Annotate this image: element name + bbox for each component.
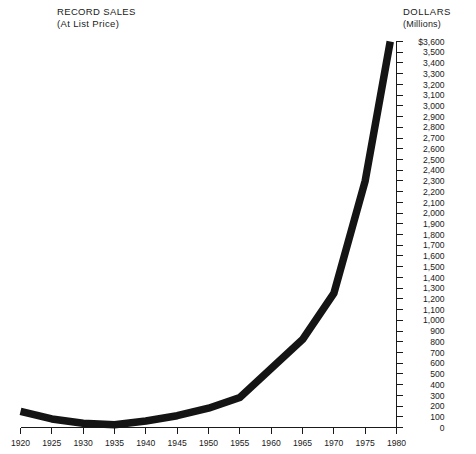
- y-tick-label: 2,600: [423, 144, 445, 154]
- y-tick-label: 200: [430, 401, 445, 411]
- y-tick-label: 3,200: [423, 80, 445, 90]
- y-tick-label: 0: [440, 423, 445, 433]
- x-tick-label: 1940: [136, 438, 155, 448]
- x-tick-label: 1975: [356, 438, 375, 448]
- x-tick-label: 1965: [293, 438, 312, 448]
- chart-container: RECORD SALES (At List Price) DOLLARS (Mi…: [0, 0, 476, 454]
- y-tick-label: 1,500: [423, 262, 445, 272]
- x-tick-label: 1920: [11, 438, 30, 448]
- y-tick-label: 2,800: [423, 122, 445, 132]
- y-tick-label: 2,700: [423, 133, 445, 143]
- y-tick-label: 700: [430, 348, 445, 358]
- x-tick-label: 1925: [42, 438, 61, 448]
- y-tick-label: 3,400: [423, 58, 445, 68]
- x-tick-label: 1950: [199, 438, 218, 448]
- y-tick-label: 500: [430, 369, 445, 379]
- plot-area: $3,6003,5003,4003,3003,2003,1003,0002,90…: [0, 0, 476, 454]
- y-tick-label: 1,800: [423, 230, 445, 240]
- y-tick-label: 3,100: [423, 90, 445, 100]
- y-tick-label: 400: [430, 380, 445, 390]
- y-tick-label: 1,000: [423, 315, 445, 325]
- y-tick-label: $3,600: [418, 37, 445, 47]
- y-tick-label: 1,100: [423, 305, 445, 315]
- x-axis-ticks: [21, 428, 397, 434]
- y-tick-label: 2,300: [423, 176, 445, 186]
- x-tick-label: 1945: [168, 438, 187, 448]
- y-tick-label: 2,100: [423, 198, 445, 208]
- x-axis-tick-labels: 1920192519301935194019451950195519601965…: [11, 438, 406, 448]
- y-tick-label: 1,300: [423, 283, 445, 293]
- y-tick-label: 2,900: [423, 112, 445, 122]
- y-tick-label: 1,600: [423, 251, 445, 261]
- x-tick-label: 1970: [324, 438, 343, 448]
- y-axis-ticks: [397, 42, 403, 428]
- y-tick-label: 2,500: [423, 155, 445, 165]
- y-tick-label: 600: [430, 358, 445, 368]
- y-tick-label: 900: [430, 326, 445, 336]
- y-tick-label: 800: [430, 337, 445, 347]
- y-tick-label: 3,500: [423, 47, 445, 57]
- x-tick-label: 1935: [105, 438, 124, 448]
- y-tick-label: 1,200: [423, 294, 445, 304]
- data-series-line: [21, 42, 391, 425]
- y-tick-label: 300: [430, 391, 445, 401]
- y-tick-label: 1,700: [423, 240, 445, 250]
- y-tick-label: 1,900: [423, 219, 445, 229]
- x-tick-label: 1930: [74, 438, 93, 448]
- y-tick-label: 3,300: [423, 69, 445, 79]
- y-tick-label: 1,400: [423, 273, 445, 283]
- y-axis-tick-labels: $3,6003,5003,4003,3003,2003,1003,0002,90…: [418, 37, 445, 433]
- y-tick-label: 3,000: [423, 101, 445, 111]
- y-tick-label: 2,000: [423, 208, 445, 218]
- x-tick-label: 1980: [387, 438, 406, 448]
- y-tick-label: 2,400: [423, 165, 445, 175]
- y-tick-label: 100: [430, 412, 445, 422]
- x-tick-label: 1955: [230, 438, 249, 448]
- y-tick-label: 2,200: [423, 187, 445, 197]
- x-tick-label: 1960: [262, 438, 281, 448]
